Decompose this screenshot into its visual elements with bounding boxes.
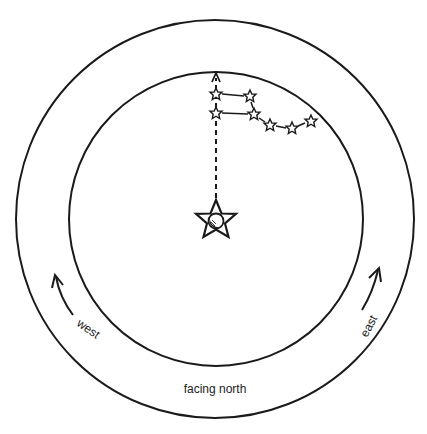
west-rotation-arrow-icon [52,275,73,315]
west-label: west [73,315,103,342]
dipper-star-icon [210,107,222,119]
sky-rotation-diagram: west east facing north [0,0,427,434]
dipper-star-icon [244,90,256,102]
polaris-star-icon [196,200,236,237]
dipper-star-icon [305,115,317,127]
facing-north-label: facing north [184,382,247,396]
dipper-star-icon [286,122,298,134]
dipper-star-icon [248,108,260,120]
dipper-star-icon [264,119,276,131]
east-rotation-arrow-icon [362,268,381,310]
dipper-star-icon [210,88,222,100]
